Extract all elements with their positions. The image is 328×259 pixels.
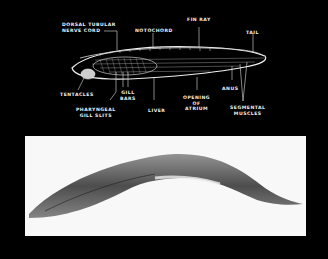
amphioxus-figure: DORSAL TUBULAR NERVE CORD NOTOCHORD FIN … bbox=[0, 0, 328, 259]
label-opening-of-atrium: OPENING OF ATRIUM bbox=[183, 95, 210, 112]
label-pharyngeal-gill-slits: PHARYNGEAL GILL SLITS bbox=[76, 107, 116, 118]
label-gill-bars: GILL BARS bbox=[120, 90, 136, 101]
label-tentacles: TENTACLES bbox=[60, 92, 94, 98]
label-segmental-muscles: SEGMENTAL MUSCLES bbox=[230, 105, 266, 116]
lancelet-specimen-image bbox=[25, 136, 306, 236]
label-tail: TAIL bbox=[246, 30, 259, 36]
label-dorsal-nerve-cord: DORSAL TUBULAR NERVE CORD bbox=[62, 22, 116, 33]
label-liver: LIVER bbox=[148, 108, 165, 114]
specimen-photo bbox=[25, 136, 306, 236]
label-notochord: NOTOCHORD bbox=[135, 28, 173, 34]
label-fin-ray: FIN RAY bbox=[187, 17, 211, 23]
label-anus: ANUS bbox=[222, 86, 238, 92]
